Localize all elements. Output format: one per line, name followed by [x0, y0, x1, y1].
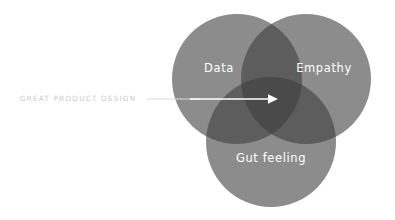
venn-diagram: Data Empathy Gut feeling GREAT PRODUCT D… — [0, 0, 395, 220]
venn-label-data: Data — [204, 61, 234, 75]
venn-label-empathy: Empathy — [296, 61, 352, 75]
diagram-canvas: Data Empathy Gut feeling GREAT PRODUCT D… — [0, 0, 395, 220]
venn-label-gut-feeling: Gut feeling — [236, 151, 306, 165]
callout-label: GREAT PRODUCT DESIGN — [20, 94, 136, 103]
